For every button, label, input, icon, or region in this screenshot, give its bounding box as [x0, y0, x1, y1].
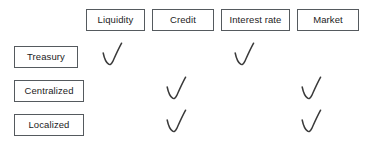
column-header-label: Liquidity — [98, 15, 134, 25]
column-header-credit: Credit — [152, 9, 214, 31]
column-header-interest-rate: Interest rate — [221, 9, 290, 31]
checkmark-icon — [232, 41, 262, 71]
risk-matrix-figure: Liquidity Credit Interest rate Market Tr… — [0, 0, 369, 148]
row-header-centralized: Centralized — [14, 80, 84, 102]
column-header-liquidity: Liquidity — [86, 9, 145, 31]
checkmark-icon — [164, 108, 194, 138]
row-header-localized: Localized — [14, 114, 84, 136]
checkmark-icon — [299, 108, 329, 138]
column-header-market: Market — [297, 9, 359, 31]
checkmark-icon — [100, 41, 130, 71]
row-header-treasury: Treasury — [14, 46, 78, 68]
checkmark-icon — [164, 75, 194, 105]
row-header-label: Localized — [28, 120, 69, 130]
row-header-label: Treasury — [27, 52, 65, 62]
column-header-label: Market — [313, 15, 343, 25]
column-header-label: Interest rate — [230, 15, 282, 25]
column-header-label: Credit — [170, 15, 196, 25]
checkmark-icon — [299, 75, 329, 105]
row-header-label: Centralized — [24, 86, 73, 96]
